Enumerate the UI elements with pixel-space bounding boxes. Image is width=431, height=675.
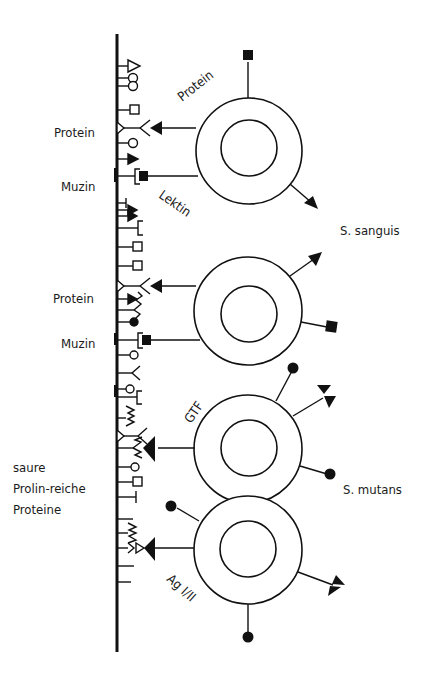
- label-muzin-top: Muzin: [61, 179, 95, 194]
- receptor-filled-triangle: [117, 211, 137, 221]
- receptor-bracket: [117, 221, 143, 235]
- receptor-open-triangle: [117, 60, 140, 72]
- receptor-open-square: [117, 105, 139, 114]
- receptor-y: [117, 366, 140, 380]
- bacterium-sanguis-1: [139, 50, 318, 209]
- receptor-filled-circle: [117, 318, 138, 326]
- diagram-canvas: Protein Muzin Protein Muzin saure Prolin…: [0, 0, 431, 675]
- adhesin-filled-square: [325, 320, 337, 332]
- adhesin-double-triangle: [328, 586, 341, 596]
- adhesin-gtf-double-triangle: [143, 448, 155, 462]
- adhesin-filled-ball: [325, 469, 336, 480]
- receptor-muzin-bracket-top: [114, 168, 140, 184]
- receptor-protein-y-gtf: [117, 428, 147, 444]
- label-adhesin-protein: Protein: [175, 67, 217, 104]
- adhesin-double-triangle: [317, 385, 331, 394]
- receptor-open-circle: [117, 351, 138, 359]
- adhesin-filled-ball: [166, 501, 177, 512]
- adhesin-ag-double-triangle: [144, 537, 155, 548]
- adhesin-filled-square: [243, 50, 253, 60]
- adhesin-filled-ball: [288, 363, 299, 374]
- label-protein-top: Protein: [54, 125, 95, 140]
- receptor-open-circle: [117, 385, 134, 393]
- receptor-protein-y-top: [117, 120, 150, 136]
- label-adhesin-ag: Ag I/II: [164, 571, 199, 605]
- receptor-open-circle: [117, 463, 139, 471]
- receptor-zigzag-ag: [117, 523, 136, 543]
- adhesin-protein-arrow: [150, 279, 162, 293]
- adhesion-diagram: Protein Muzin Protein Muzin saure Prolin…: [0, 0, 431, 675]
- receptor-filled-triangle: [117, 154, 138, 164]
- adhesin-lektin-square: [139, 171, 148, 181]
- adhesin-protein-arrow: [150, 121, 162, 135]
- receptor-filled-triangle: [117, 205, 137, 215]
- receptor-protein-y-mid: [117, 278, 150, 294]
- label-protein-mid: Protein: [53, 291, 94, 306]
- bacterium-mutans-2: [144, 496, 345, 643]
- receptor-zigzag-gtf: [117, 437, 142, 458]
- label-muzin-mid: Muzin: [61, 336, 95, 351]
- adhesin-ag-double-triangle: [144, 548, 155, 561]
- receptor-t-bar: [117, 491, 136, 503]
- label-species-sanguis: S. sanguis: [340, 223, 400, 238]
- receptor-zigzag: [117, 406, 134, 426]
- adhesin-double-triangle: [332, 575, 345, 585]
- label-species-mutans: S. mutans: [343, 482, 402, 497]
- bacterium-sanguis-2: [142, 252, 338, 365]
- receptor-open-circle: [117, 139, 138, 148]
- label-prolin-reiche: Prolin-reiche: [13, 481, 86, 496]
- receptor-open-square: [117, 242, 142, 251]
- label-proteine: Proteine: [13, 502, 61, 517]
- adhesin-filled-ball: [243, 632, 254, 643]
- bacterium-mutans-1: [143, 363, 336, 504]
- receptor-open-triangle-ag: [117, 543, 144, 553]
- label-adhesin-lektin: Lektin: [156, 187, 194, 220]
- receptor-open-circle: [117, 82, 138, 91]
- receptor-filled-triangle: [117, 294, 137, 304]
- surface-receptors: [114, 60, 150, 582]
- receptor-open-square: [117, 261, 142, 270]
- label-saure: saure: [13, 460, 45, 475]
- adhesin-double-triangle: [324, 396, 336, 408]
- adhesin-filled-arrow: [308, 252, 322, 266]
- adhesin-lektin-square: [142, 335, 151, 345]
- receptor-open-square: [117, 477, 142, 486]
